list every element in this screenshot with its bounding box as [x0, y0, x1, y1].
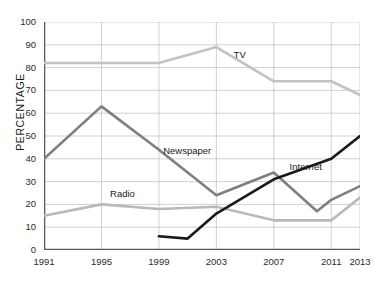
y-tick-0: 0: [10, 244, 36, 255]
x-tick-1995: 1995: [84, 256, 118, 267]
y-tick-40: 40: [10, 153, 36, 164]
y-tick-80: 80: [10, 62, 36, 73]
y-tick-20: 20: [10, 198, 36, 209]
y-tick-70: 70: [10, 84, 36, 95]
x-tick-2013: 2013: [343, 256, 377, 267]
series-label-radio: Radio: [110, 188, 135, 199]
y-tick-90: 90: [10, 39, 36, 50]
x-tick-1991: 1991: [27, 256, 61, 267]
x-tick-2003: 2003: [199, 256, 233, 267]
y-tick-30: 30: [10, 176, 36, 187]
plot-area: TVNewspaperRadioInternet: [44, 22, 360, 250]
x-tick-2007: 2007: [257, 256, 291, 267]
y-tick-10: 10: [10, 221, 36, 232]
data-lines: [44, 47, 360, 239]
y-tick-60: 60: [10, 107, 36, 118]
series-label-internet: Internet: [290, 161, 322, 172]
chart-container: PERCENTAGE 0102030405060708090100 199119…: [0, 0, 379, 293]
chart-svg: [44, 22, 360, 250]
x-tick-1999: 1999: [142, 256, 176, 267]
series-label-newspaper: Newspaper: [163, 145, 211, 156]
y-tick-50: 50: [10, 130, 36, 141]
y-tick-100: 100: [10, 16, 36, 27]
series-line-tv: [44, 47, 360, 95]
series-label-tv: TV: [234, 49, 246, 60]
gridlines: [44, 22, 360, 250]
